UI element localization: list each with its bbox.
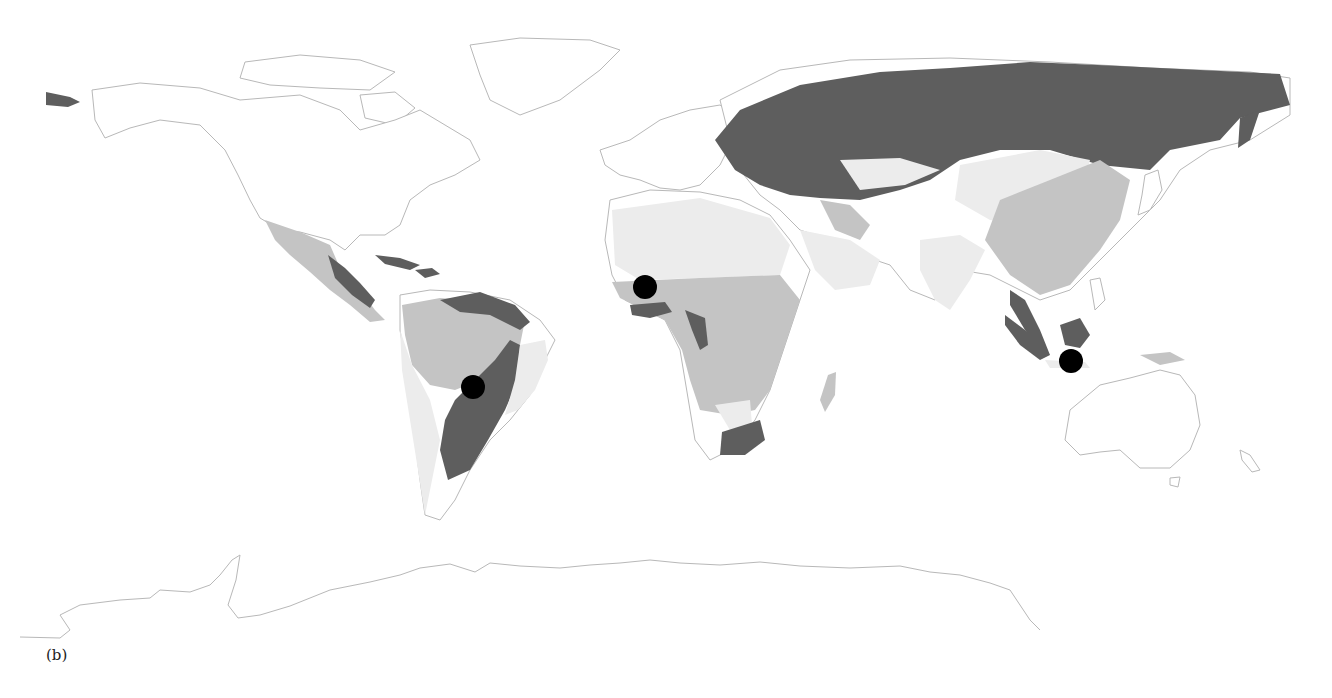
- cuba: [375, 255, 420, 270]
- world-map: [0, 0, 1332, 698]
- tasmania: [1170, 477, 1180, 487]
- borneo: [1060, 318, 1090, 348]
- australia: [1065, 370, 1200, 468]
- hispaniola: [415, 268, 440, 278]
- europe: [600, 105, 740, 190]
- sahara: [612, 198, 790, 280]
- greenland: [470, 38, 620, 115]
- marker-west-africa[interactable]: [633, 275, 657, 299]
- figure-caption: (b): [46, 646, 67, 664]
- antarctica: [20, 555, 1040, 638]
- marker-java[interactable]: [1059, 349, 1083, 373]
- philippines: [1090, 278, 1105, 310]
- new-guinea: [1140, 352, 1185, 365]
- madagascar: [820, 372, 836, 412]
- marker-south-america[interactable]: [461, 375, 485, 399]
- chukotka-west: [46, 92, 80, 107]
- arctic-islands: [240, 55, 395, 90]
- north-america: [92, 83, 480, 250]
- new-zealand: [1240, 450, 1260, 472]
